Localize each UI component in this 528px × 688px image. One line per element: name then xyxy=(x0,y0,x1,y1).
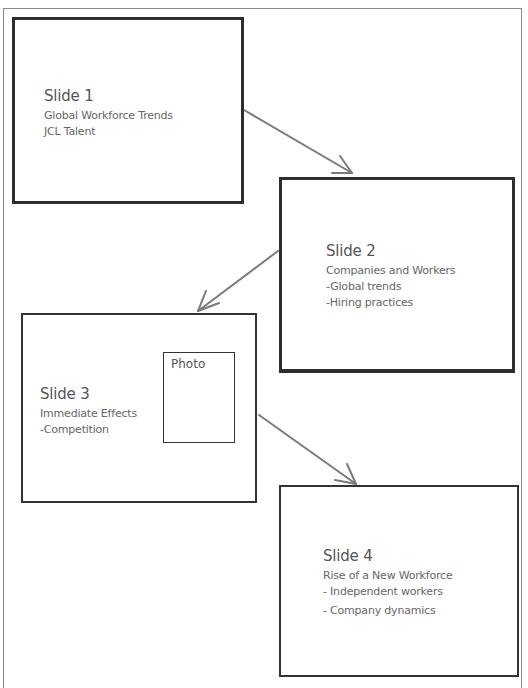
photo-placeholder: Photo xyxy=(163,352,235,443)
slide-1-line: Global Workforce Trends xyxy=(44,108,173,124)
slide-2-line: -Global trends xyxy=(326,279,455,295)
slide-2-line: Companies and Workers xyxy=(326,263,455,279)
slide-3-title: Slide 3 xyxy=(40,385,137,403)
slide-1-title: Slide 1 xyxy=(44,87,173,105)
slide-3-line: -Competition xyxy=(40,422,137,438)
slide-4-line: - Company dynamics xyxy=(323,603,452,619)
slide-1-content: Slide 1 Global Workforce Trends JCL Tale… xyxy=(44,87,173,140)
slide-2-title: Slide 2 xyxy=(326,242,455,260)
slide-4-line: - Independent workers xyxy=(323,584,452,600)
slide-4-line: Rise of a New Workforce xyxy=(323,568,452,584)
slide-1-line: JCL Talent xyxy=(44,124,173,140)
slide-3-content: Slide 3 Immediate Effects -Competition xyxy=(40,385,137,438)
slide-2-line: -Hiring practices xyxy=(326,295,455,311)
slide-4-content: Slide 4 Rise of a New Workforce - Indepe… xyxy=(323,547,452,619)
slide-4-title: Slide 4 xyxy=(323,547,452,565)
slide-2-content: Slide 2 Companies and Workers -Global tr… xyxy=(326,242,455,311)
photo-label: Photo xyxy=(171,357,205,371)
slide-3-line: Immediate Effects xyxy=(40,406,137,422)
